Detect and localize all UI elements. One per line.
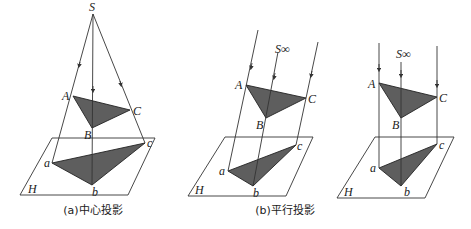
label-a: a (219, 164, 225, 178)
label-a: a (370, 161, 376, 175)
label-b: b (92, 185, 98, 199)
projected-triangle-abc (228, 145, 296, 186)
caption: (a)中心投影 (63, 203, 122, 217)
label-B: B (392, 118, 400, 132)
projection-figure: S A B C a b c H (a)中心投影 S∞ A B C a b c H… (0, 0, 471, 229)
space-triangle-abc (379, 83, 437, 118)
label-a: a (44, 156, 50, 170)
caption: (b)平行投影 (255, 203, 315, 217)
label-c: c (147, 136, 153, 150)
arrow-icon (311, 71, 312, 76)
label-c: c (439, 138, 445, 152)
label-source: S (89, 0, 95, 14)
label-source: S∞ (396, 47, 411, 61)
panel-central-projection: S A B C a b c H (a)中心投影 (20, 0, 155, 217)
arrow-icon (120, 81, 121, 85)
panel-oblique-parallel-projection: S∞ A B C a b c H (b)平行投影 (188, 30, 318, 217)
panel-orthogonal-parallel-projection: S∞ A B C a b c H (337, 43, 454, 199)
label-A: A (234, 78, 243, 92)
projected-triangle-abc (52, 143, 145, 185)
label-C: C (133, 104, 142, 118)
space-triangle-abc (246, 85, 306, 118)
label-source: S∞ (275, 42, 290, 56)
label-C: C (439, 91, 448, 105)
projected-triangle-abc (379, 144, 437, 186)
ray-a (228, 30, 258, 171)
label-plane: H (27, 182, 38, 196)
space-triangle-abc (73, 96, 130, 128)
label-C: C (308, 92, 317, 106)
label-b: b (404, 185, 410, 199)
label-b: b (253, 186, 259, 200)
label-A: A (367, 77, 376, 91)
arrow-icon (79, 62, 80, 66)
label-A: A (61, 89, 70, 103)
label-plane: H (343, 185, 354, 199)
label-c: c (297, 139, 303, 153)
label-B: B (256, 118, 264, 132)
label-B: B (84, 128, 92, 142)
projection-diagram: S A B C a b c H (a)中心投影 S∞ A B C a b c H… (0, 0, 471, 229)
label-plane: H (194, 183, 205, 197)
